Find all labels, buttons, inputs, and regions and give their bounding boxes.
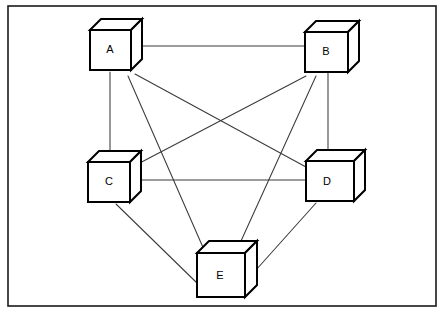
node-b[interactable]: B <box>305 21 359 72</box>
node-e[interactable]: E <box>197 241 257 297</box>
node-e-label: E <box>216 269 223 281</box>
node-d[interactable]: D <box>306 150 365 201</box>
network-diagram-svg: ABCDE <box>0 0 447 315</box>
node-a-label: A <box>106 43 114 55</box>
node-b-label: B <box>322 45 329 57</box>
node-c-label: C <box>105 175 113 187</box>
node-d-label: D <box>323 175 331 187</box>
node-a[interactable]: A <box>90 19 142 70</box>
network-diagram-canvas: ABCDE <box>0 0 447 315</box>
node-c[interactable]: C <box>88 151 141 202</box>
